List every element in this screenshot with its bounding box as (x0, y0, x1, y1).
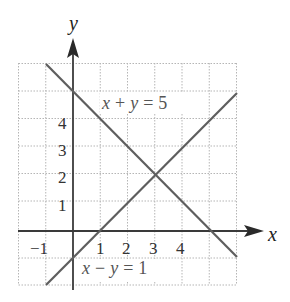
tick-x-neg1: −1 (30, 239, 48, 258)
label-x-plus-y-eq-5: x+y=5 (100, 92, 200, 114)
line-x-minus-y-eq-1 (46, 93, 237, 285)
tick-y-3: 3 (58, 141, 67, 160)
coordinate-plot: y x −1 1 2 3 4 1 2 3 4 x+y=5 x−y=1 (0, 0, 290, 302)
tick-y-2: 2 (58, 168, 67, 187)
tick-x-1: 1 (96, 239, 105, 258)
label-x-minus-y-eq-1: x−y=1 (80, 258, 172, 281)
tick-x-2: 2 (122, 239, 131, 258)
tick-y-4: 4 (58, 114, 67, 133)
tick-x-4: 4 (176, 239, 185, 258)
x-axis (18, 225, 264, 237)
y-axis-label: y (67, 12, 78, 35)
tick-x-3: 3 (149, 239, 158, 258)
x-axis-label: x (267, 223, 277, 245)
tick-labels: −1 1 2 3 4 1 2 3 4 (30, 114, 185, 258)
tick-y-1: 1 (58, 196, 67, 215)
